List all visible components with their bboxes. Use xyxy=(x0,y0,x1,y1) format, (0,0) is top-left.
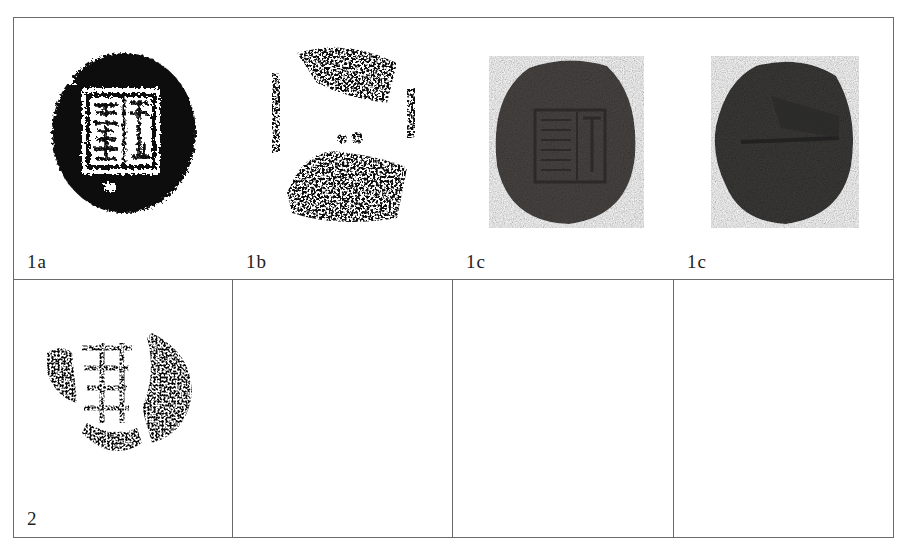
column-divider-3 xyxy=(673,279,674,537)
label-1c-reverse: 1c xyxy=(687,251,707,273)
figure-plate: 1a 1b xyxy=(13,17,894,538)
label-1c-obverse: 1c xyxy=(466,251,486,273)
label-2: 2 xyxy=(27,508,38,530)
column-divider-1 xyxy=(232,279,233,537)
clay-sealing-obverse xyxy=(489,56,644,228)
label-1b: 1b xyxy=(246,251,267,273)
label-1a: 1a xyxy=(27,251,47,273)
column-divider-2 xyxy=(452,279,453,537)
seal-rubbing-1a xyxy=(44,43,204,218)
seal-rubbing-2 xyxy=(42,313,197,468)
clay-sealing-reverse xyxy=(711,56,859,228)
row-divider xyxy=(14,279,893,280)
seal-rubbing-1b xyxy=(267,43,417,223)
